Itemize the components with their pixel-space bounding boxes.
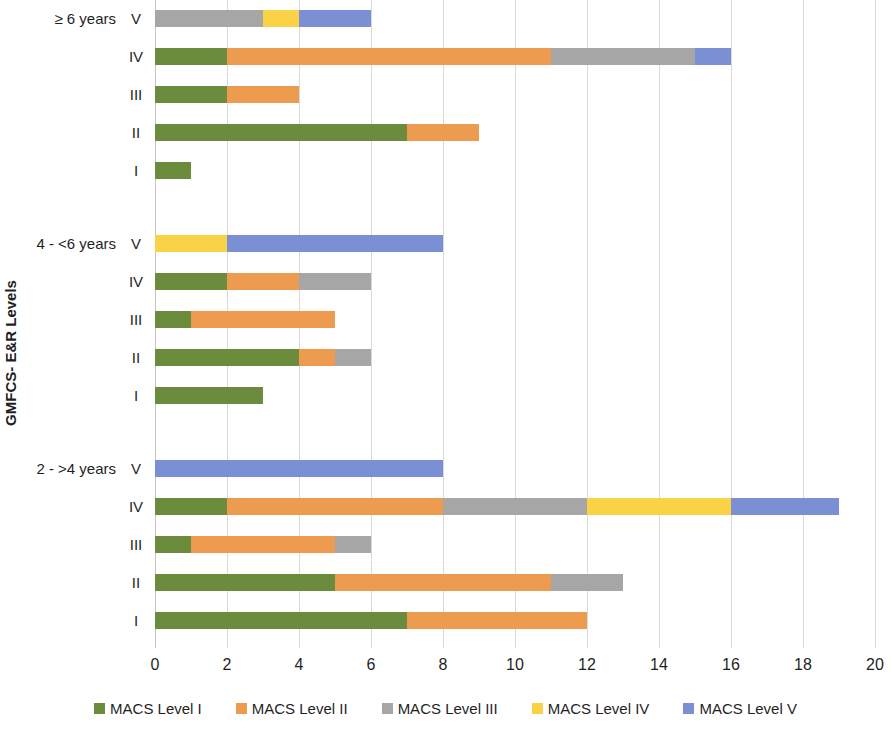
legend-item[interactable]: MACS Level III — [382, 700, 498, 717]
bar-row — [155, 460, 443, 477]
gmfcs-level-label: III — [125, 536, 147, 553]
bar-segment — [731, 498, 839, 515]
bar-segment — [155, 10, 263, 27]
gmfcs-level-label: I — [125, 612, 147, 629]
x-tick-label-20: 20 — [855, 656, 891, 674]
bar-segment — [551, 574, 623, 591]
row-label: I — [0, 387, 147, 404]
row-label: ≥ 6 yearsV — [0, 10, 147, 27]
x-tick-label-10: 10 — [495, 656, 535, 674]
chart-legend: MACS Level IMACS Level IIMACS Level IIIM… — [0, 700, 891, 717]
bar-row — [155, 574, 623, 591]
bar-segment — [335, 574, 551, 591]
bar-segment — [155, 612, 407, 629]
bar-segment — [155, 460, 443, 477]
legend-label: MACS Level V — [699, 700, 797, 717]
legend-swatch-icon — [94, 703, 105, 714]
bar-segment — [155, 86, 227, 103]
gmfcs-level-label: V — [125, 235, 147, 252]
bar-segment — [299, 10, 371, 27]
legend-item[interactable]: MACS Level I — [94, 700, 202, 717]
bar-segment — [155, 48, 227, 65]
row-label: III — [0, 311, 147, 328]
row-label: 2 - >4 yearsV — [0, 460, 147, 477]
bar-segment — [299, 273, 371, 290]
gmfcs-level-label: III — [125, 86, 147, 103]
bar-row — [155, 311, 335, 328]
bar-row — [155, 536, 371, 553]
bar-row — [155, 612, 587, 629]
bar-segment — [335, 349, 371, 366]
bar-segment — [227, 273, 299, 290]
bar-segment — [407, 124, 479, 141]
row-label: IV — [0, 498, 147, 515]
row-label: II — [0, 124, 147, 141]
row-label: 4 - <6 yearsV — [0, 235, 147, 252]
x-tick-label-2: 2 — [207, 656, 247, 674]
bar-segment — [227, 86, 299, 103]
bar-row — [155, 86, 299, 103]
bar-segment — [587, 498, 731, 515]
bar-segment — [227, 48, 551, 65]
bar-row — [155, 498, 839, 515]
gmfcs-level-label: II — [125, 124, 147, 141]
group-label: ≥ 6 years — [54, 10, 116, 27]
bar-segment — [155, 574, 335, 591]
x-tick-label-14: 14 — [639, 656, 679, 674]
legend-label: MACS Level IV — [548, 700, 650, 717]
bar-row — [155, 124, 479, 141]
x-tick-label-16: 16 — [711, 656, 751, 674]
bar-segment — [407, 612, 587, 629]
legend-swatch-icon — [532, 703, 543, 714]
bar-segment — [191, 311, 335, 328]
bar-segment — [695, 48, 731, 65]
bar-row — [155, 387, 263, 404]
gmfcs-level-label: I — [125, 162, 147, 179]
legend-item[interactable]: MACS Level V — [683, 700, 797, 717]
bar-segment — [227, 498, 443, 515]
gmfcs-level-label: IV — [125, 273, 147, 290]
gmfcs-level-label: II — [125, 349, 147, 366]
bar-segment — [155, 162, 191, 179]
bar-segment — [227, 235, 443, 252]
bar-segment — [155, 311, 191, 328]
legend-swatch-icon — [683, 703, 694, 714]
bar-segment — [335, 536, 371, 553]
row-label: III — [0, 86, 147, 103]
bar-segment — [299, 349, 335, 366]
row-label: IV — [0, 273, 147, 290]
bar-row — [155, 349, 371, 366]
bar-row — [155, 162, 191, 179]
row-label: III — [0, 536, 147, 553]
x-tick-label-18: 18 — [783, 656, 823, 674]
row-label: II — [0, 349, 147, 366]
bar-segment — [155, 235, 227, 252]
bar-segment — [155, 387, 263, 404]
legend-item[interactable]: MACS Level II — [236, 700, 348, 717]
bar-segment — [155, 536, 191, 553]
group-label: 4 - <6 years — [36, 235, 116, 252]
legend-item[interactable]: MACS Level IV — [532, 700, 650, 717]
bar-row — [155, 273, 371, 290]
stacked-bar-chart: GMFCS- E&R Levels ≥ 6 yearsVIVIIIIII4 - … — [0, 0, 891, 729]
x-tick-label-0: 0 — [135, 656, 175, 674]
x-tick-label-8: 8 — [423, 656, 463, 674]
bar-segment — [155, 349, 299, 366]
gmfcs-level-label: I — [125, 387, 147, 404]
bar-row — [155, 48, 731, 65]
gmfcs-level-label: III — [125, 311, 147, 328]
group-label: 2 - >4 years — [36, 460, 116, 477]
x-tick-label-4: 4 — [279, 656, 319, 674]
bar-row — [155, 10, 371, 27]
row-label: I — [0, 162, 147, 179]
plot-area — [155, 0, 875, 648]
bar-segment — [155, 273, 227, 290]
bar-segment — [551, 48, 695, 65]
legend-swatch-icon — [382, 703, 393, 714]
x-axis-tick-labels: 02468101214161820 — [155, 656, 875, 680]
bar-segment — [443, 498, 587, 515]
x-tick-label-6: 6 — [351, 656, 391, 674]
bar-segment — [155, 124, 407, 141]
bar-segment — [191, 536, 335, 553]
gmfcs-level-label: V — [125, 10, 147, 27]
